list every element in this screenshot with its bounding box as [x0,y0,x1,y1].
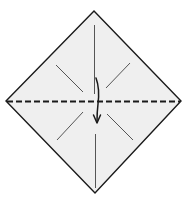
origami-diagram [0,0,183,206]
origami-diagram-svg [0,0,183,206]
